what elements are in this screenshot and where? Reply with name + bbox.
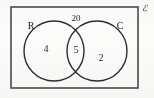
set-label-r: R xyxy=(28,20,35,31)
count-left-only: 4 xyxy=(44,44,49,54)
universal-set-symbol: ℰ xyxy=(142,3,148,13)
set-label-c: C xyxy=(117,20,124,31)
count-right-only: 2 xyxy=(99,53,104,63)
venn-diagram-figure: R C 20 4 5 2 ℰ xyxy=(0,0,154,98)
venn-diagram-canvas: R C 20 4 5 2 ℰ xyxy=(0,0,154,98)
count-intersection: 5 xyxy=(74,45,79,55)
count-top-boundary: 20 xyxy=(72,13,82,23)
